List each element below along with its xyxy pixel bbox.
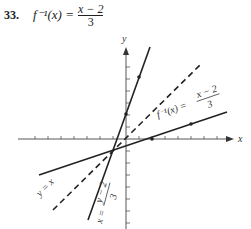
inverse-label: f⁻¹(x) = x − 2 3: [153, 82, 223, 126]
inverse-line: [39, 112, 227, 175]
inverse-label-num: x − 2: [194, 83, 219, 101]
y-axis-arrow-icon: [123, 47, 129, 55]
original-label: x = y − 2 3: [87, 180, 121, 228]
inverse-point: [150, 137, 154, 141]
inverse-label-lhs: f⁻¹(x) =: [155, 99, 188, 120]
graph: x y f⁻¹(x) = x − 2 3: [0, 0, 251, 229]
original-label-lhs: x =: [93, 208, 107, 225]
identity-label: y = x: [33, 176, 56, 199]
inverse-point: [189, 122, 193, 126]
x-axis-arrow-icon: [226, 136, 234, 142]
original-label-num: y − 2: [92, 180, 108, 204]
inverse-label-den: 3: [205, 98, 214, 110]
function-point: [137, 75, 141, 79]
x-axis-label: x: [237, 133, 243, 144]
identity-label-text: y = x: [33, 176, 56, 199]
original-label-den: 3: [107, 193, 119, 202]
function-point: [124, 112, 128, 116]
y-axis-label: y: [121, 33, 127, 44]
